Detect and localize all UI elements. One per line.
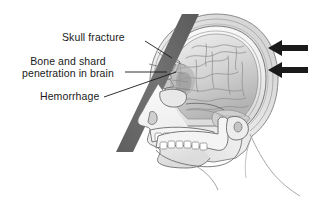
label-bone-shard-line-2: penetration in brain	[22, 68, 114, 80]
label-skull-fracture: Skull fracture	[62, 32, 125, 44]
label-skull-fracture-line-1: Skull fracture	[62, 32, 125, 44]
brain-injury-diagram: Skull fracture Bone and shard penetratio…	[0, 0, 315, 201]
label-bone-shard: Bone and shard penetration in brain	[22, 56, 114, 79]
label-hemorrhage: Hemorrhage	[40, 91, 99, 103]
label-bone-shard-line-1: Bone and shard	[22, 56, 114, 68]
label-hemorrhage-line-1: Hemorrhage	[40, 91, 99, 103]
